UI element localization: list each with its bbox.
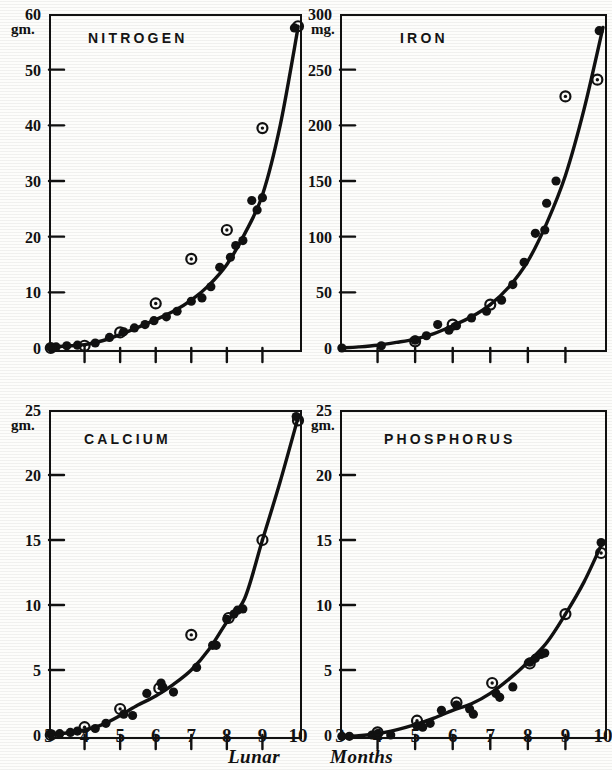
x-tick-label: 7 (486, 725, 496, 746)
data-point-mean-center (376, 731, 379, 734)
data-point-filled (495, 693, 504, 702)
y-tick-label: 20 (316, 467, 332, 484)
data-point-mean-center (564, 612, 567, 615)
data-point-mean-center (528, 662, 531, 665)
data-point-filled (469, 710, 478, 719)
y-tick-label: 25 (316, 402, 332, 419)
x-tick-label: 10 (594, 725, 612, 746)
x-tick-label: 8 (523, 725, 533, 746)
data-point-mean-center (415, 719, 418, 722)
data-point-filled (437, 706, 446, 715)
x-tick-label: 6 (448, 725, 458, 746)
x-tick-label: 9 (561, 725, 571, 746)
data-point-filled (345, 732, 354, 741)
data-point-mean-center (455, 701, 458, 704)
data-point-filled (597, 538, 606, 547)
data-point-mean-center (490, 681, 493, 684)
data-point-filled (508, 682, 517, 691)
figure-canvas: NITROGEN gm. 0102030405060 IRON mg. 0501… (0, 0, 612, 770)
y-tick-label: 10 (316, 597, 332, 614)
y-tick-label: 0 (324, 727, 332, 744)
x-axis-title-word1: Lunar (228, 746, 280, 768)
x-axis-title-word2: Months (330, 746, 393, 768)
y-tick-label: 15 (316, 532, 332, 549)
data-point-mean-center (599, 551, 602, 554)
y-tick-label: 5 (324, 662, 332, 679)
plot-phosphorus: 0510152025345678910 (0, 0, 612, 770)
data-point-filled (540, 649, 549, 658)
data-point-filled (426, 719, 435, 728)
data-point-filled (386, 730, 395, 739)
